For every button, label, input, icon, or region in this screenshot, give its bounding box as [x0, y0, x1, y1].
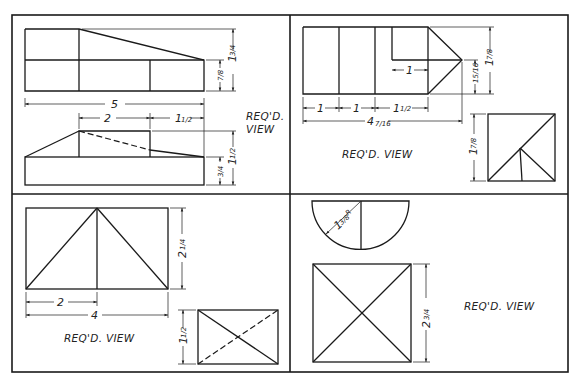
- panel-2-front-view: [303, 27, 462, 94]
- required-view-label-1b: VIEW: [246, 123, 275, 135]
- dim-height-frac: 7/8: [486, 48, 494, 60]
- dim-height: 2: [176, 251, 189, 258]
- dim-overall-length: 5: [111, 98, 118, 111]
- dim-base-height: 3/4: [217, 166, 225, 177]
- dim-overall: 4: [367, 115, 374, 128]
- dim-side-height-frac: 7/8: [470, 137, 478, 149]
- dim-height-frac: 3/4: [423, 309, 431, 320]
- dim-side-height-frac: 1/2: [180, 326, 188, 338]
- dim-seg3-frac: 1/2: [400, 105, 412, 113]
- panel-2-dimension-text: 1 1 1 1 1/2 4 7/16 1 7/8 15/16 1 7/8 REQ…: [317, 48, 496, 160]
- panel-1-front-view: [25, 131, 204, 185]
- dim-half-width: 2: [57, 296, 64, 309]
- dim-top-height-frac: 3/4: [229, 45, 237, 56]
- dim-top-step: 7/8: [217, 69, 225, 81]
- panel-4-dimension-text: 1 3/8 R 2 3/4 REQ'D. VIEW: [331, 208, 534, 328]
- panel-1-dimensions: [25, 29, 233, 185]
- dim-height-frac: 1/4: [179, 239, 187, 250]
- dim-overall-frac: 7/16: [375, 120, 391, 128]
- panel-1-top-view: [25, 29, 204, 91]
- panel-3-front-view: [26, 208, 168, 289]
- dim-front-height-frac: 1/2: [229, 147, 237, 159]
- required-view-label-4: REQ'D. VIEW: [464, 300, 535, 312]
- panel-3-side-view: [198, 310, 278, 364]
- panel-1: 5 2 1 1/2 1 3/4 7/8 1 1/2 3/4 REQ'D. VIE…: [25, 29, 284, 185]
- panel-2: 1 1 1 1 1/2 4 7/16 1 7/8 15/16 1 7/8 REQ…: [303, 27, 555, 181]
- dim-box-width: 2: [104, 112, 111, 125]
- panel-3: 2 4 2 1/4 1 1/2 REQ'D. VIEW: [26, 208, 278, 364]
- panel-2-side-view: [488, 114, 555, 181]
- dim-inner-length: 1: [406, 64, 413, 77]
- required-view-label-3: REQ'D. VIEW: [64, 332, 135, 344]
- drawing-sheet: 5 2 1 1/2 1 3/4 7/8 1 1/2 3/4 REQ'D. VIE…: [0, 0, 580, 388]
- dim-width: 4: [91, 309, 98, 322]
- dim-seg1: 1: [317, 102, 324, 115]
- panel-3-dimension-text: 2 4 2 1/4 1 1/2 REQ'D. VIEW: [57, 239, 190, 344]
- required-view-label-1a: REQ'D.: [246, 110, 284, 122]
- dim-right-offset-frac: 1/2: [181, 116, 193, 124]
- panel-4-top-view: [312, 201, 409, 249]
- dim-seg3: 1: [393, 102, 400, 115]
- panel-4-front-view: [313, 264, 411, 362]
- dim-seg2: 1: [353, 102, 360, 115]
- panel-4: 1 3/8 R 2 3/4 REQ'D. VIEW: [312, 201, 535, 362]
- dim-point-height: 15/16: [472, 62, 480, 83]
- dim-height: 2: [420, 321, 433, 328]
- required-view-label-2: REQ'D. VIEW: [342, 148, 413, 160]
